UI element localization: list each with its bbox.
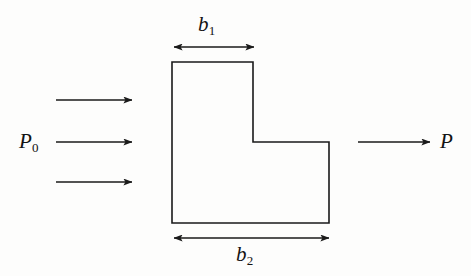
inflow-pressure-label-base: P [19, 129, 32, 153]
dimension-label-b2: b2 [236, 244, 253, 265]
outflow-pressure-label: P [440, 131, 453, 152]
figure-canvas: b1 b2 P0 P [0, 0, 471, 276]
inflow-pressure-label: P0 [19, 131, 38, 152]
l-shaped-body-outline [172, 62, 329, 223]
diagram-vector-layer [0, 0, 471, 276]
dimension-label-b2-subscript: 2 [247, 253, 254, 268]
dimension-label-b1: b1 [198, 14, 215, 35]
dimension-label-b1-subscript: 1 [209, 23, 216, 38]
dimension-label-b2-base: b [236, 242, 247, 266]
outflow-pressure-label-base: P [440, 129, 453, 153]
inflow-pressure-label-subscript: 0 [32, 140, 39, 155]
dimension-label-b1-base: b [198, 12, 209, 36]
